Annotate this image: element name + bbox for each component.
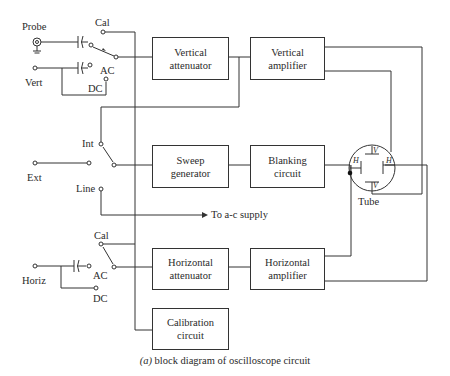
calibration-circuit-block: Calibrationcircuit: [152, 308, 229, 350]
horiz-ac-label: AC: [93, 270, 108, 282]
probe-label: Probe: [22, 21, 47, 33]
tube-h-right-label: H: [386, 155, 392, 167]
vert-cal-label: Cal: [95, 17, 110, 29]
sweep-generator-block: Sweepgenerator: [152, 145, 229, 188]
blanking-circuit-block: Blankingcircuit: [250, 145, 325, 188]
int-label: Int: [82, 138, 94, 150]
vert-dc-label: DC: [88, 83, 103, 95]
horiz-dc-label: DC: [93, 293, 108, 305]
tube-v-top-label: V: [373, 145, 378, 157]
vert-ac-label: AC: [100, 65, 115, 77]
ext-label: Ext: [27, 172, 42, 184]
tube-label: Tube: [358, 196, 379, 208]
figure-caption: (a) block diagram of oscilloscope circui…: [0, 355, 450, 366]
tube-v-bottom-label: V: [373, 180, 378, 192]
arrow-icon: [202, 212, 208, 218]
vert-label: Vert: [25, 77, 43, 89]
line-label: Line: [76, 183, 95, 195]
ac-supply-label: To a-c supply: [211, 209, 268, 221]
horiz-cal-label: Cal: [94, 230, 109, 242]
junction-dot: [348, 171, 353, 176]
horizontal-amplifier-block: Horizontalamplifier: [250, 248, 325, 290]
vertical-attenuator-block: Verticalattenuator: [152, 37, 229, 80]
horizontal-attenuator-block: Horizontalattenuator: [152, 248, 229, 290]
vertical-amplifier-block: Verticalamplifier: [250, 37, 325, 80]
horiz-label: Horiz: [22, 275, 46, 287]
probe-connector-icon: [33, 38, 41, 53]
tube-h-left-label: H: [353, 155, 359, 167]
